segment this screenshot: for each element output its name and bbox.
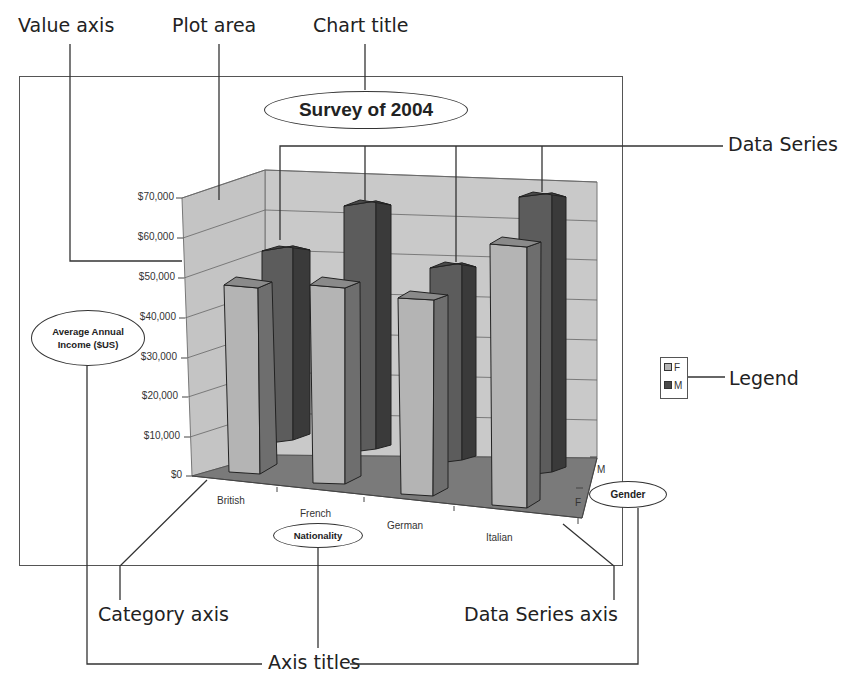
value-tick: $40,000 (116, 311, 176, 322)
value-tick: $60,000 (114, 231, 174, 242)
legend-swatch-m (664, 381, 672, 389)
series-axis-title: Gender (589, 481, 667, 508)
value-tick: $30,000 (117, 351, 177, 362)
series-label-f: F (575, 497, 581, 508)
category-label-italian: Italian (486, 532, 513, 543)
chart-title: Survey of 2004 (264, 91, 468, 129)
category-axis-title: Nationality (273, 523, 363, 548)
legend: F M (660, 357, 688, 399)
legend-item-f: F (661, 358, 687, 376)
series-axis-title-text: Gender (610, 489, 645, 500)
legend-label-f: F (674, 362, 680, 373)
category-label-french: French (300, 508, 331, 519)
value-tick: $20,000 (118, 390, 178, 401)
category-label-british: British (217, 495, 245, 506)
category-label-german: German (387, 520, 423, 531)
value-tick: $10,000 (120, 430, 180, 441)
value-tick: $50,000 (115, 271, 175, 282)
value-tick: $0 (122, 469, 182, 480)
legend-item-m: M (661, 376, 687, 394)
legend-label-m: M (674, 380, 682, 391)
category-axis-title-text: Nationality (294, 530, 343, 541)
chart-title-text: Survey of 2004 (299, 99, 433, 121)
series-label-m: M (597, 464, 605, 475)
value-tick: $70,000 (114, 191, 174, 202)
legend-swatch-f (664, 363, 672, 371)
value-axis-title-line2: Income ($US) (58, 338, 119, 351)
value-axis-title-line1: Average Annual (52, 325, 124, 338)
